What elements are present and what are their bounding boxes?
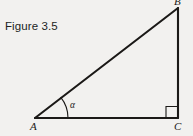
angle-label-alpha: α xyxy=(70,100,75,110)
right-angle-marker-icon xyxy=(166,107,178,119)
figure-container: Figure 3.5 A B C α xyxy=(0,0,193,136)
figure-caption: Figure 3.5 xyxy=(5,20,58,32)
vertex-label-b: B xyxy=(174,0,181,7)
angle-arc-alpha xyxy=(61,97,68,118)
vertex-label-c: C xyxy=(174,120,181,132)
vertex-label-a: A xyxy=(30,120,37,132)
